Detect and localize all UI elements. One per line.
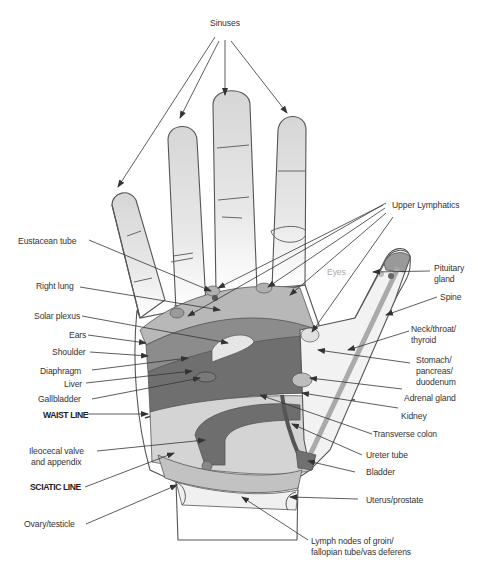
label-eyes: Eyes xyxy=(327,267,346,277)
fingers xyxy=(112,91,306,318)
label-solar-plexus: Solar plexus xyxy=(34,311,80,321)
label-right-lung: Right lung xyxy=(36,281,74,291)
gallbladder-spot xyxy=(196,372,216,382)
label-stomach-2: pancreas/ xyxy=(416,366,453,376)
label-ileocecal-2: and appendix xyxy=(31,457,81,467)
label-ileocecal-1: Ileocecal valve xyxy=(29,446,84,456)
label-lymph-2: fallopian tube/vas deferens xyxy=(311,547,411,557)
label-ureter-tube: Ureter tube xyxy=(366,450,408,460)
label-ovary-testicle: Ovary/testicle xyxy=(24,519,75,529)
label-sinuses: Sinuses xyxy=(210,18,240,28)
label-bladder: Bladder xyxy=(366,467,395,477)
label-eustacean-tube: Eustacean tube xyxy=(18,236,76,246)
label-stomach-3: duodenum xyxy=(416,377,456,387)
label-liver: Liver xyxy=(64,379,82,389)
label-spine: Spine xyxy=(440,292,461,302)
little-finger xyxy=(112,193,165,318)
label-upper-lymphatics: Upper Lymphatics xyxy=(392,200,459,210)
label-gallbladder: Gallbladder xyxy=(38,394,81,404)
label-lymph-1: Lymph nodes of groin/ xyxy=(311,536,394,546)
label-neck-1: Neck/throat/ xyxy=(411,324,456,334)
label-waist-line: WAIST LINE xyxy=(43,410,88,420)
label-sciatic-line: SCIATIC LINE xyxy=(30,482,81,492)
ring-finger xyxy=(168,127,206,311)
thyroid-spot xyxy=(301,328,319,342)
index-finger xyxy=(272,117,306,289)
kidney-spot xyxy=(292,373,312,387)
middle-finger xyxy=(213,91,257,292)
label-uterus-prostate: Uterus/prostate xyxy=(366,495,423,505)
label-pituitary-2: gland xyxy=(434,274,455,284)
hand-reflexology-diagram: Sinuses Eustacean tube Right lung Solar … xyxy=(0,0,478,573)
label-neck-2: thyroid xyxy=(411,335,436,345)
label-pituitary-1: Pituitary xyxy=(434,263,464,273)
label-diaphragm: Diaphragm xyxy=(40,366,81,376)
label-shoulder: Shoulder xyxy=(52,347,86,357)
label-adrenal-gland: Adrenal gland xyxy=(404,393,456,403)
label-stomach-1: Stomach/ xyxy=(416,355,452,365)
label-kidney: Kidney xyxy=(401,411,427,421)
label-ears: Ears xyxy=(69,330,86,340)
label-transverse-colon: Transverse colon xyxy=(373,429,437,439)
